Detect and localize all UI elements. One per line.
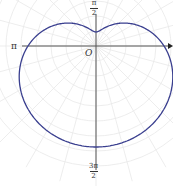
origin-label: O (85, 49, 92, 58)
polar-chart: π2 π O 3π2 (0, 0, 173, 187)
chart-canvas (0, 0, 173, 187)
label-3pi-over-2: 3π2 (89, 163, 98, 180)
label-pi: π (11, 42, 17, 51)
label-pi-over-2: π2 (90, 0, 98, 17)
arrow-icon (168, 43, 173, 49)
